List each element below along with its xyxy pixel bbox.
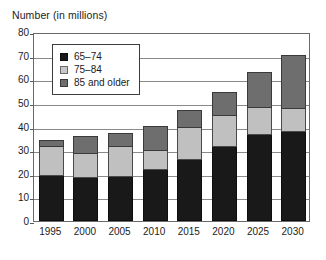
bar-segment xyxy=(177,159,202,221)
legend-item-label: 65–74 xyxy=(74,51,102,62)
chart-legend: 65–7475–8485 and older xyxy=(52,44,140,95)
bar-segment xyxy=(247,134,272,221)
bar-segment xyxy=(108,133,133,147)
black-swatch-icon xyxy=(60,53,68,61)
y-axis-tick-labels: 01020304050607080 xyxy=(0,33,29,222)
legend-item: 65–74 xyxy=(60,50,130,63)
bar-segment xyxy=(39,140,64,147)
y-axis-tick-label: 60 xyxy=(18,75,29,85)
bar-segment xyxy=(247,72,272,107)
bar-segment xyxy=(39,175,64,221)
bar-stack xyxy=(247,32,272,221)
bar-segment xyxy=(39,146,64,177)
y-axis-tick-label: 20 xyxy=(18,170,29,180)
legend-item: 85 and older xyxy=(60,76,130,89)
bar-segment xyxy=(73,153,98,179)
bar-stack xyxy=(143,32,168,221)
bar-stack xyxy=(212,32,237,221)
bar-stack xyxy=(177,32,202,221)
bar-segment xyxy=(212,146,237,221)
y-axis-tick-mark xyxy=(30,105,34,106)
bar-segment xyxy=(73,136,98,154)
bar-segment xyxy=(212,92,237,115)
bar-segment xyxy=(143,169,168,221)
bar-segment xyxy=(177,127,202,160)
bar-segment xyxy=(143,150,168,170)
bar-segment xyxy=(143,126,168,152)
y-axis-tick-label: 80 xyxy=(18,28,29,38)
y-axis-tick-label: 70 xyxy=(18,52,29,62)
legend-item: 75–84 xyxy=(60,63,130,76)
y-axis-tick-mark xyxy=(30,58,34,59)
y-axis-tick-mark xyxy=(30,81,34,82)
y-axis-tick-label: 50 xyxy=(18,99,29,109)
bar-segment xyxy=(281,131,306,221)
bar-segment xyxy=(108,146,133,178)
x-axis-tick-labels: 19952000200520102015202020252030 xyxy=(33,226,310,242)
y-axis-tick-mark xyxy=(30,129,34,130)
bar-segment xyxy=(281,108,306,133)
bar-segment xyxy=(281,55,306,109)
bar-stack xyxy=(281,32,306,221)
stacked-bar-chart-figure: Number (in millions) 01020304050607080 6… xyxy=(0,0,326,260)
figure-caption xyxy=(6,251,320,260)
bar-segment xyxy=(212,115,237,147)
dark-gray-swatch-icon xyxy=(60,79,68,87)
y-axis-tick-mark xyxy=(30,176,34,177)
legend-item-label: 85 and older xyxy=(74,77,130,88)
legend-item-label: 75–84 xyxy=(74,64,102,75)
y-axis-tick-mark xyxy=(30,34,34,35)
light-gray-swatch-icon xyxy=(60,66,68,74)
bar-segment xyxy=(108,176,133,221)
y-axis-tick-mark xyxy=(30,199,34,200)
y-axis-title: Number (in millions) xyxy=(12,9,107,21)
y-axis-tick-label: 10 xyxy=(18,193,29,203)
y-axis-tick-mark xyxy=(30,152,34,153)
y-axis-tick-mark xyxy=(30,223,34,224)
bar-segment xyxy=(73,177,98,221)
y-axis-tick-label: 30 xyxy=(18,146,29,156)
y-axis-tick-label: 0 xyxy=(23,217,29,227)
bar-segment xyxy=(177,110,202,128)
y-axis-tick-label: 40 xyxy=(18,123,29,133)
x-axis-tick-label: 2030 xyxy=(273,226,313,238)
bar-segment xyxy=(247,107,272,135)
